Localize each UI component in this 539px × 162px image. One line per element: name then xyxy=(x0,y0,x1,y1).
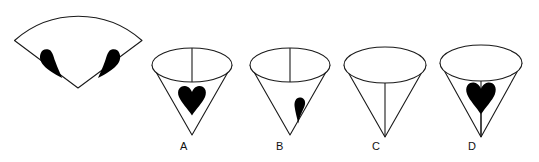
option-d-label: D xyxy=(468,140,476,152)
option-d-cone[interactable] xyxy=(440,45,522,137)
option-b-cone[interactable] xyxy=(250,48,330,135)
spatial-reasoning-figure xyxy=(0,0,539,162)
option-c-cone[interactable] xyxy=(344,47,426,137)
option-b-label: B xyxy=(276,140,284,152)
option-c-label: C xyxy=(372,140,380,152)
option-a-label: A xyxy=(180,140,188,152)
option-d-rim-ellipse xyxy=(440,45,522,81)
sector-outline xyxy=(15,16,143,88)
option-a-cone[interactable] xyxy=(152,48,232,135)
prompt-sector-net xyxy=(15,16,143,88)
figure-canvas: A B C D xyxy=(0,0,539,162)
option-c-rim-ellipse xyxy=(344,47,426,83)
